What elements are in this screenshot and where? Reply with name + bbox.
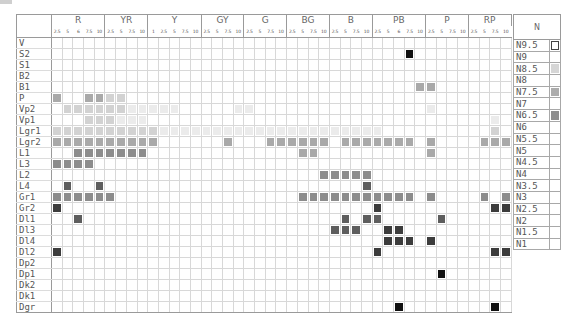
color-swatch xyxy=(85,193,93,201)
grid-cell xyxy=(351,137,362,148)
grid-cell xyxy=(436,269,447,280)
grid-cell xyxy=(276,214,287,225)
grid-cell xyxy=(62,38,73,49)
row-label: Dk1 xyxy=(17,291,52,302)
neutral-row: N4 xyxy=(514,168,561,180)
grid-cell xyxy=(383,93,394,104)
grid-cell xyxy=(223,269,234,280)
grid-cell xyxy=(490,181,501,192)
grid-cell xyxy=(212,258,223,269)
grid-cell xyxy=(201,49,212,60)
hue-step-label: 2.5 xyxy=(287,26,298,38)
grid-cell xyxy=(329,148,340,159)
grid-cell xyxy=(148,214,159,225)
grid-cell xyxy=(169,104,180,115)
grid-cell xyxy=(297,137,308,148)
grid-cell xyxy=(500,137,511,148)
grid-cell xyxy=(255,247,266,258)
grid-cell xyxy=(94,60,105,71)
hue-step-label: 10 xyxy=(94,26,105,38)
grid-cell xyxy=(479,258,490,269)
grid-cell xyxy=(201,280,212,291)
grid-cell xyxy=(329,82,340,93)
grid-cell xyxy=(94,104,105,115)
grid-cell xyxy=(404,159,415,170)
grid-cell xyxy=(105,236,116,247)
grid-cell xyxy=(361,137,372,148)
grid-cell xyxy=(351,71,362,82)
grid-cell xyxy=(319,203,330,214)
grid-cell xyxy=(329,181,340,192)
grid-cell xyxy=(404,60,415,71)
grid-cell xyxy=(372,115,383,126)
grid-cell xyxy=(490,148,501,159)
color-swatch xyxy=(320,138,328,146)
grid-cell xyxy=(190,170,201,181)
grid-cell xyxy=(329,236,340,247)
grid-cell xyxy=(223,302,234,313)
neutral-label: N5.5 xyxy=(514,133,550,145)
grid-cell xyxy=(148,148,159,159)
grid-cell xyxy=(201,60,212,71)
color-swatch xyxy=(106,149,114,157)
grid-cell xyxy=(73,104,84,115)
grid-cell xyxy=(479,60,490,71)
grid-cell xyxy=(394,247,405,258)
grid-cell xyxy=(404,82,415,93)
grid-cell xyxy=(383,280,394,291)
grid-cell xyxy=(233,93,244,104)
neutral-swatch-cell xyxy=(550,180,561,192)
grid-cell xyxy=(490,137,501,148)
grid-cell xyxy=(62,236,73,247)
grid-cell xyxy=(201,236,212,247)
grid-cell xyxy=(169,126,180,137)
grid-cell xyxy=(351,258,362,269)
grid-cell xyxy=(287,159,298,170)
grid-cell xyxy=(190,115,201,126)
grid-cell xyxy=(479,82,490,93)
color-swatch xyxy=(342,193,350,201)
grid-cell xyxy=(148,159,159,170)
grid-cell xyxy=(404,214,415,225)
grid-cell xyxy=(223,126,234,137)
grid-cell xyxy=(426,38,437,49)
grid-cell xyxy=(158,192,169,203)
grid-cell xyxy=(180,225,191,236)
grid-cell xyxy=(308,192,319,203)
grid-cell xyxy=(404,38,415,49)
grid-cell xyxy=(180,104,191,115)
hue-step-label: 2.5 xyxy=(105,26,116,38)
grid-cell xyxy=(383,269,394,280)
grid-cell xyxy=(73,203,84,214)
grid-cell xyxy=(212,291,223,302)
grid-cell xyxy=(62,203,73,214)
grid-cell xyxy=(458,49,469,60)
color-swatch xyxy=(331,127,339,135)
grid-cell xyxy=(116,159,127,170)
color-swatch xyxy=(96,105,104,113)
grid-cell xyxy=(458,104,469,115)
color-swatch xyxy=(224,127,232,135)
grid-cell xyxy=(404,192,415,203)
grid-cell xyxy=(308,104,319,115)
color-swatch xyxy=(374,204,382,212)
grid-cell xyxy=(468,236,479,247)
grid-cell xyxy=(404,71,415,82)
grid-cell xyxy=(372,170,383,181)
grid-cell xyxy=(415,170,426,181)
grid-cell xyxy=(276,225,287,236)
neutral-label: N8.5 xyxy=(514,63,550,75)
grid-cell xyxy=(255,159,266,170)
grid-cell xyxy=(105,82,116,93)
hue-step-label: 2.5 xyxy=(372,26,383,38)
neutral-swatch-cell xyxy=(550,121,561,133)
grid-cell xyxy=(265,291,276,302)
grid-cell xyxy=(361,258,372,269)
color-swatch xyxy=(374,138,382,146)
grid-cell xyxy=(126,93,137,104)
grid-cell xyxy=(233,137,244,148)
grid-cell xyxy=(319,225,330,236)
grid-cell xyxy=(287,126,298,137)
grid-cell xyxy=(190,137,201,148)
grid-cell xyxy=(94,170,105,181)
